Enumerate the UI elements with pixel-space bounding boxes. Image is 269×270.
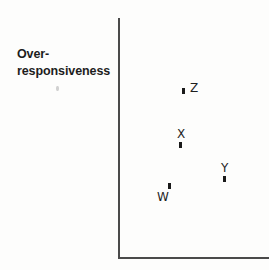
- x-axis-line: [118, 257, 269, 259]
- scan-artifact-speck: [56, 86, 59, 91]
- data-point-marker: [223, 176, 226, 182]
- data-point-label: Z: [190, 82, 198, 94]
- data-point-label: W: [157, 191, 169, 203]
- data-point-marker: [182, 88, 185, 94]
- data-point-label: Y: [221, 162, 228, 174]
- data-point-marker: [168, 183, 171, 189]
- scatter-plot-figure: Over- responsiveness Z X Y W: [0, 0, 269, 270]
- data-point-marker: [179, 142, 182, 148]
- y-axis-label-line-2: responsiveness: [17, 63, 121, 80]
- y-axis-label: Over- responsiveness: [17, 46, 121, 80]
- data-point-label: X: [177, 128, 185, 140]
- y-axis-label-line-1: Over-: [17, 46, 121, 63]
